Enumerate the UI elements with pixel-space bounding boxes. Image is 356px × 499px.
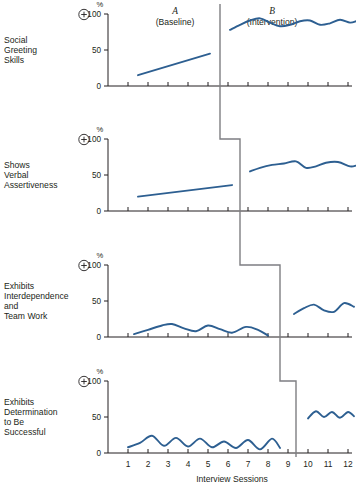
y-tick-label: 0 — [96, 207, 101, 216]
y-axis-unit: % — [97, 125, 104, 134]
panel-label-line: Assertiveness — [4, 180, 58, 190]
x-tick-label: 2 — [146, 459, 151, 469]
series-intervention-panel-2 — [250, 161, 356, 171]
x-tick-label: 1 — [126, 459, 131, 469]
panel-2: ShowsVerbalAssertiveness050100 — [4, 134, 356, 216]
x-tick-label: 10 — [303, 459, 313, 469]
y-tick-label: 0 — [96, 82, 101, 91]
panel-4-label: ExhibitsDeterminationto BeSuccessful — [4, 397, 58, 437]
panel-label-line: Team Work — [4, 311, 48, 321]
y-tick-label: 50 — [92, 413, 102, 422]
series-baseline-panel-2 — [138, 185, 232, 197]
panel-label-line: Exhibits — [4, 397, 34, 407]
phase-b-letter: B — [269, 6, 275, 16]
panel-3-label: ExhibitsInterdependenceandTeam Work — [4, 281, 69, 321]
panel-2-label: ShowsVerbalAssertiveness — [4, 160, 58, 190]
series-baseline-panel-1 — [138, 54, 210, 76]
series-baseline-panel-4 — [128, 436, 280, 450]
y-axis-unit: % — [97, 0, 104, 9]
y-tick-label: 50 — [92, 46, 102, 55]
panel-label-line: Determination — [4, 407, 58, 417]
panel-label-line: Verbal — [4, 170, 28, 180]
y-tick-label: 100 — [87, 261, 101, 270]
x-tick-label: 6 — [226, 459, 231, 469]
x-tick-label: 7 — [246, 459, 251, 469]
phase-change-line — [220, 4, 296, 457]
x-tick-label: 3 — [166, 459, 171, 469]
x-tick-label: 9 — [286, 459, 291, 469]
x-tick-label: 11 — [324, 459, 333, 469]
series-intervention-panel-3 — [294, 303, 354, 314]
panel-label-line: Greeting — [4, 45, 37, 55]
chart-canvas: A(Baseline)B(Intervention)SocialGreeting… — [0, 0, 356, 499]
multiple-baseline-chart: A(Baseline)B(Intervention)SocialGreeting… — [0, 0, 356, 499]
panel-label-line: Skills — [4, 55, 24, 65]
y-axis-unit: % — [97, 251, 104, 260]
panel-label-line: to Be — [4, 417, 24, 427]
panel-1-label: SocialGreetingSkills — [4, 35, 37, 65]
x-tick-label: 4 — [186, 459, 191, 469]
panel-3: ExhibitsInterdependenceandTeam Work05010… — [4, 260, 354, 342]
x-axis-title: Interview Sessions — [196, 474, 268, 484]
x-tick-label: 5 — [206, 459, 211, 469]
panel-label-line: Exhibits — [4, 281, 34, 291]
x-tick-label: 12 — [343, 459, 353, 469]
y-tick-label: 100 — [87, 10, 101, 19]
series-intervention-panel-4 — [308, 411, 354, 418]
y-tick-label: 100 — [87, 377, 101, 386]
phase-a-name: (Baseline) — [156, 17, 195, 27]
panel-label-line: and — [4, 301, 19, 311]
y-tick-label: 0 — [96, 333, 101, 342]
y-tick-label: 100 — [87, 135, 101, 144]
y-tick-label: 50 — [92, 297, 102, 306]
x-tick-label: 8 — [266, 459, 271, 469]
panel-label-line: Interdependence — [4, 291, 69, 301]
phase-a-letter: A — [171, 6, 178, 16]
y-axis-unit: % — [97, 367, 104, 376]
panel-label-line: Social — [4, 35, 27, 45]
y-tick-label: 0 — [96, 449, 101, 458]
panel-label-line: Shows — [4, 160, 30, 170]
panel-4: ExhibitsDeterminationto BeSuccessful0501… — [4, 376, 354, 469]
panel-label-line: Successful — [4, 427, 46, 437]
y-tick-label: 50 — [92, 171, 102, 180]
